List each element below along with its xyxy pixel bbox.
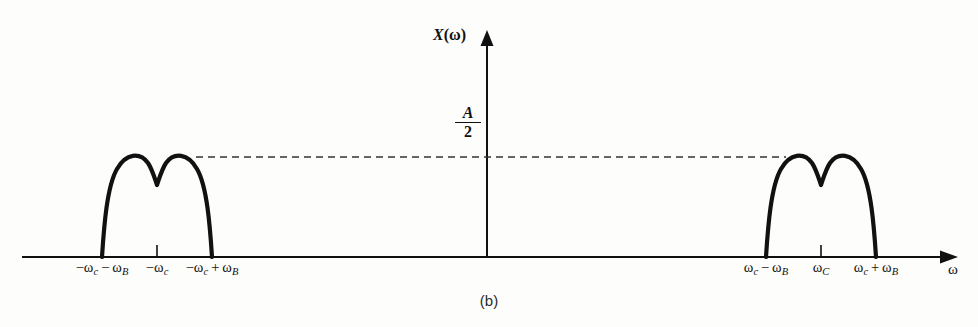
figure-container: X(ω) ω A 2 −ωc − ωB−ωc−ωc + ωBωc − ωBωCω… xyxy=(0,0,978,327)
positive-band-spectrum-curve xyxy=(766,156,876,257)
figure-caption: (b) xyxy=(0,292,978,309)
amplitude-denominator: 2 xyxy=(455,124,481,140)
x-axis-label: ω xyxy=(948,262,958,277)
y-axis-label-func: X xyxy=(433,26,444,43)
tick-label-wc: ωC xyxy=(813,259,830,277)
tick-label-neg-wc: −ωc xyxy=(146,259,169,277)
tick-label-neg-wc-minus-wB: −ωc − ωB xyxy=(76,259,129,277)
y-axis-label-arg: (ω) xyxy=(444,26,466,43)
tick-label-wc-minus-wB: ωc − ωB xyxy=(744,259,789,277)
tick-label-neg-wc-plus-wB: −ωc + ωB xyxy=(186,259,239,277)
negative-band-spectrum-curve xyxy=(102,156,212,257)
amplitude-numerator: A xyxy=(455,105,481,122)
tick-label-wc-plus-wB: ωc + ωB xyxy=(854,259,899,277)
y-axis-arrowhead xyxy=(481,30,494,46)
spectrum-plot xyxy=(0,0,978,327)
y-axis-label: X(ω) xyxy=(433,27,466,43)
amplitude-label: A 2 xyxy=(455,105,481,140)
